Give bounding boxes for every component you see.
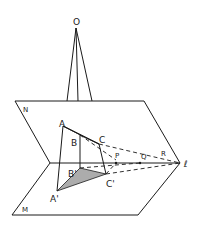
label-q: Q xyxy=(141,153,147,161)
plane-m xyxy=(12,163,180,215)
point-q xyxy=(139,162,141,164)
point-p xyxy=(115,162,117,164)
label-c-prime: C' xyxy=(106,179,115,189)
label-r: R xyxy=(161,150,166,158)
label-c: C xyxy=(99,135,105,145)
projection-rays xyxy=(67,28,92,101)
label-p: P xyxy=(115,152,119,160)
triangle-a-prime-b-prime-c-prime xyxy=(57,168,106,191)
label-o: O xyxy=(73,17,80,27)
label-a: A xyxy=(59,119,66,129)
label-a-prime: A' xyxy=(50,194,59,204)
label-m: M xyxy=(22,206,28,214)
desargues-diagram: O N M A B C B' C' A' P Q R ℓ xyxy=(0,0,204,228)
label-b-prime: B' xyxy=(68,169,77,179)
label-b: B xyxy=(71,138,77,148)
label-l: ℓ xyxy=(183,159,188,169)
plane-n xyxy=(15,101,180,163)
label-n: N xyxy=(23,106,28,114)
